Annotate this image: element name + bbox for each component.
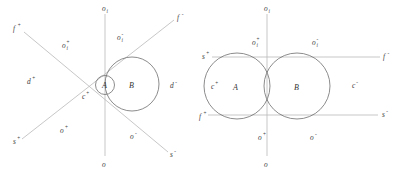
region-label-c-plus: c + (82, 90, 89, 101)
axis-label-s-minus: s - (382, 108, 388, 119)
region-label-oi-minus-base: o (312, 38, 316, 47)
axis-label-f-plus-sup: + (203, 110, 206, 116)
axis-label-o-bottom: o (264, 160, 268, 169)
region-label-d-plus-base: d (27, 77, 31, 86)
axis-label-f-minus-base: f (383, 52, 386, 61)
axis-label-f-minus: f - (383, 50, 389, 61)
axis-label-f-plus-sup: + (18, 22, 21, 28)
axis-label-s-plus-base: s (202, 52, 205, 61)
axis-label-s-minus-base: s (382, 110, 385, 119)
region-label-oi-plus-sub: i (257, 42, 259, 48)
region-label-oi-minus-base: o (117, 33, 121, 42)
axis-label-s-plus: s + (202, 50, 209, 61)
axis-label-oi-top-base: o (264, 4, 268, 13)
region-label-o-plus: o + (258, 131, 266, 142)
region-label-c-minus-sup: - (356, 79, 358, 85)
region-label-oi-minus-sup: - (122, 31, 124, 37)
region-label-o-minus: o - (130, 130, 137, 141)
region-label-oi-minus-sub: i (122, 37, 124, 43)
region-label-oi-plus: o i + (252, 36, 260, 47)
axis-label-f-plus-base: f (199, 112, 202, 121)
axis-label-f-minus: f - (177, 11, 184, 22)
region-label-o-minus-sup: - (135, 130, 137, 136)
axis-label-oi-top-sub: i (107, 8, 109, 14)
circle-b-label: B (294, 83, 299, 92)
region-label-c-minus: c - (352, 79, 358, 90)
circle-a-label: A (232, 83, 238, 92)
region-label-oi-plus-base: o (62, 41, 66, 50)
left-diagram: A B o i o f + f - s + s - (0, 0, 198, 172)
circle-b-label: B (129, 81, 134, 90)
axis-label-s-plus-base: s (13, 137, 16, 146)
axis-label-s-plus: s + (13, 135, 20, 146)
region-label-oi-minus: o i - (312, 36, 319, 47)
axis-label-s-plus-sup: + (17, 135, 20, 141)
axis-label-s-plus-sup: + (206, 50, 209, 56)
axis-label-f-plus: f + (199, 110, 206, 121)
axis-label-f-minus-base: f (177, 13, 180, 22)
region-label-oi-plus-sub: i (67, 45, 69, 51)
region-label-c-plus-sup: + (215, 80, 218, 86)
region-label-o-plus-sup: + (263, 131, 266, 137)
axis-label-f-minus-sup: - (387, 50, 389, 56)
region-label-o-plus: o + (60, 124, 68, 135)
region-label-c-plus: c + (211, 80, 218, 91)
region-label-oi-plus-sup: + (257, 36, 260, 42)
diagonal-line-s-plus-f-minus (22, 20, 174, 139)
axis-label-s-minus-base: s (170, 150, 173, 159)
right-diagram: A B o i o s + f - f + s - (198, 0, 395, 172)
region-label-o-plus-sup: + (65, 124, 68, 130)
region-label-d-minus: d - (170, 79, 177, 90)
axis-label-s-minus: s - (170, 148, 176, 159)
region-label-o-plus-base: o (60, 126, 64, 135)
region-label-o-plus-base: o (258, 133, 262, 142)
axis-label-f-minus-sup: - (182, 11, 184, 17)
left-diagram-canvas: A B o i o f + f - s + s - (0, 0, 198, 172)
region-label-oi-plus: o i + (62, 39, 70, 50)
axis-label-s-minus-sup: - (386, 108, 388, 114)
region-label-o-minus: o - (310, 131, 317, 142)
axis-label-oi-top-sub: i (269, 8, 271, 14)
region-label-d-plus-sup: + (32, 75, 35, 81)
axis-label-o-bottom: o (102, 160, 106, 169)
diagram-page: A B o i o f + f - s + s - (0, 0, 395, 172)
region-label-oi-minus-sub: i (317, 42, 319, 48)
region-label-oi-minus: o i - (117, 31, 124, 42)
axis-label-vertical-top: o i (102, 4, 109, 14)
region-label-o-minus-base: o (310, 133, 314, 142)
region-label-d-minus-base: d (170, 81, 174, 90)
region-label-oi-plus-base: o (252, 38, 256, 47)
axis-label-s-minus-sup: - (174, 148, 176, 154)
region-label-d-minus-sup: - (175, 79, 177, 85)
circle-a-label: A (101, 81, 107, 90)
region-label-c-plus-sup: + (86, 90, 89, 96)
region-label-oi-minus-sup: - (317, 36, 319, 42)
axis-label-f-plus-base: f (13, 24, 16, 33)
region-label-d-plus: d + (27, 75, 35, 86)
region-label-o-minus-base: o (130, 132, 134, 141)
region-label-o-minus-sup: - (315, 131, 317, 137)
axis-label-oi-top-base: o (102, 4, 106, 13)
region-label-oi-plus-sup: + (67, 39, 70, 45)
right-diagram-canvas: A B o i o s + f - f + s - (198, 0, 395, 172)
diagonal-line-f-plus-s-minus (24, 32, 168, 152)
axis-label-vertical-top: o i (264, 4, 271, 14)
axis-label-f-plus: f + (13, 22, 21, 33)
